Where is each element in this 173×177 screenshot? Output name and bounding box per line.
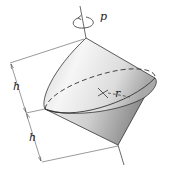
height-label-upper: h — [13, 80, 20, 93]
spin-axis-top — [80, 6, 86, 38]
spin-label: p — [100, 10, 107, 23]
radius-label: r — [115, 87, 121, 100]
height-label-lower: h — [29, 131, 36, 144]
double-cone-diagram: p r h h — [0, 0, 173, 177]
spin-axis-bottom — [118, 145, 124, 165]
